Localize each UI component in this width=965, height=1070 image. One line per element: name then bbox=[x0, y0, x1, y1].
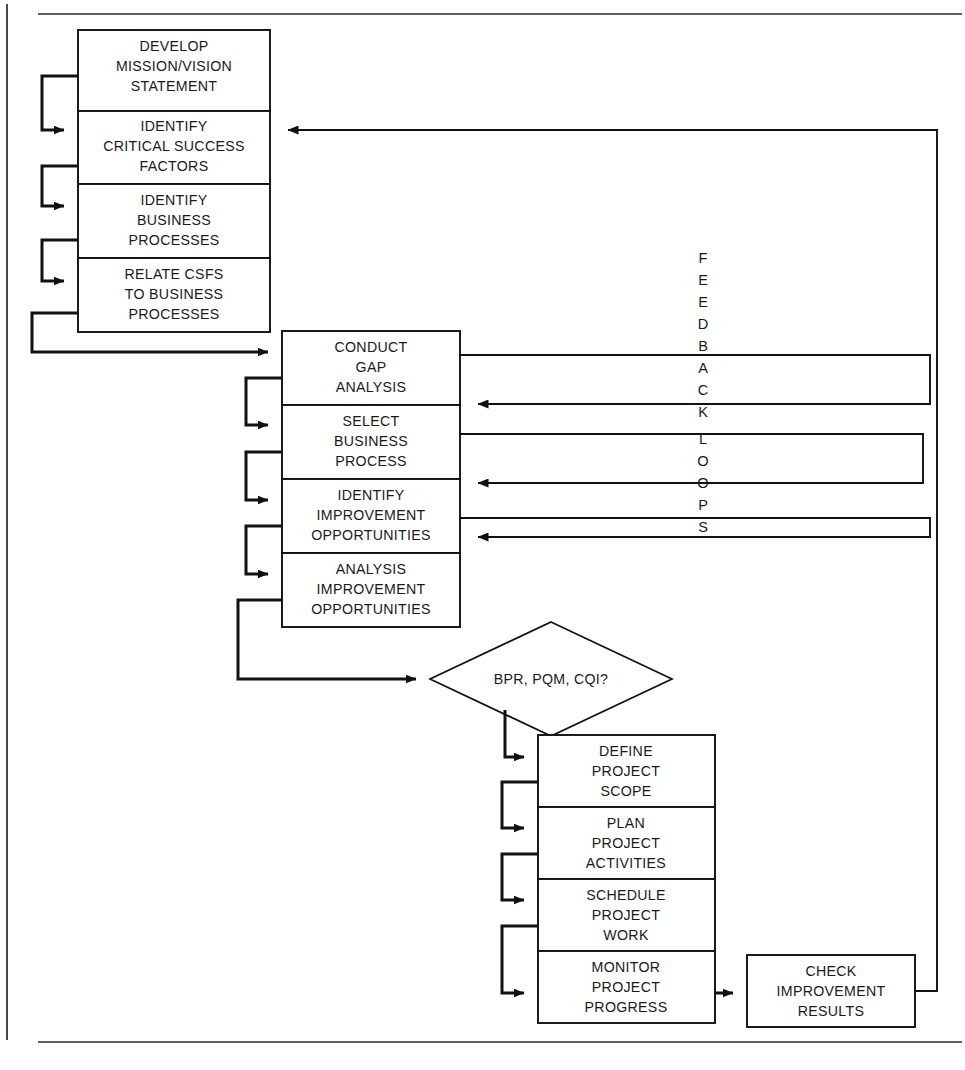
box-line: MISSION/VISION bbox=[116, 58, 232, 74]
connector-csf-to-business-processes bbox=[42, 166, 78, 206]
flowchart-diagram: DEVELOP MISSION/VISION STATEMENT IDENTIF… bbox=[0, 0, 965, 1070]
feedback-letter: P bbox=[698, 497, 708, 513]
box-line: ANALYSIS bbox=[336, 379, 407, 395]
box-line: PLAN bbox=[607, 815, 645, 831]
box-line: PROCESSES bbox=[128, 306, 219, 322]
box-define-project-scope[interactable]: DEFINE PROJECT SCOPE bbox=[538, 735, 715, 807]
box-line: PROCESSES bbox=[128, 232, 219, 248]
strategic-planning-stage: DEVELOP MISSION/VISION STATEMENT IDENTIF… bbox=[32, 30, 270, 352]
box-line: PROJECT bbox=[592, 979, 660, 995]
box-line: IMPROVEMENT bbox=[317, 507, 426, 523]
feedback-letter: O bbox=[697, 475, 708, 491]
feedback-letter: K bbox=[698, 404, 708, 420]
box-line: CHECK bbox=[805, 963, 856, 979]
box-line: IDENTIFY bbox=[140, 192, 207, 208]
feedback-loop-select-process-return bbox=[460, 434, 923, 483]
bpr-pqm-cqi-decision[interactable]: BPR, PQM, CQI? bbox=[430, 622, 672, 736]
connector-define-to-plan bbox=[502, 782, 538, 828]
project-management-stage: DEFINE PROJECT SCOPE PLAN PROJECT ACTIVI… bbox=[502, 735, 715, 1023]
feedback-letter: A bbox=[698, 360, 708, 376]
feedback-letter: C bbox=[698, 382, 709, 398]
connector-mission-to-csf bbox=[42, 76, 78, 130]
box-line: STATEMENT bbox=[131, 78, 218, 94]
gap-analysis-stage: CONDUCT GAP ANALYSIS SELECT BUSINESS PRO… bbox=[238, 331, 460, 679]
box-line: PROJECT bbox=[592, 835, 660, 851]
connector-gap-to-select bbox=[246, 378, 282, 425]
box-line: ANALYSIS bbox=[336, 561, 407, 577]
box-line: IMPROVEMENT bbox=[317, 581, 426, 597]
box-select-business-process[interactable]: SELECT BUSINESS PROCESS bbox=[282, 405, 460, 479]
feedback-letter: S bbox=[698, 519, 708, 535]
box-line: PROJECT bbox=[592, 907, 660, 923]
box-monitor-project-progress[interactable]: MONITOR PROJECT PROGRESS bbox=[538, 951, 715, 1023]
connector-processes-to-relate-csfs bbox=[42, 240, 78, 281]
box-develop-mission-vision-statement[interactable]: DEVELOP MISSION/VISION STATEMENT bbox=[78, 30, 270, 111]
feedback-letter: O bbox=[697, 453, 708, 469]
feedback-loops-label: F E E D B A C K L O O P S bbox=[697, 250, 708, 535]
box-line: DEVELOP bbox=[139, 38, 208, 54]
box-line: TO BUSINESS bbox=[125, 286, 223, 302]
box-line: IMPROVEMENT bbox=[777, 983, 886, 999]
box-relate-csfs-to-business-processes[interactable]: RELATE CSFS TO BUSINESS PROCESSES bbox=[78, 258, 270, 332]
decision-label: BPR, PQM, CQI? bbox=[494, 671, 609, 687]
box-line: DEFINE bbox=[599, 743, 653, 759]
box-line: IDENTIFY bbox=[140, 118, 207, 134]
box-line: WORK bbox=[603, 927, 649, 943]
box-identify-critical-success-factors[interactable]: IDENTIFY CRITICAL SUCCESS FACTORS bbox=[78, 111, 270, 184]
box-check-improvement-results[interactable]: CHECK IMPROVEMENT RESULTS bbox=[747, 955, 915, 1027]
feedback-letter: E bbox=[698, 272, 708, 288]
feedback-letter: F bbox=[699, 250, 708, 266]
box-line: SCOPE bbox=[600, 783, 651, 799]
connector-plan-to-schedule bbox=[502, 854, 538, 900]
connector-identify-to-analysis-improvement bbox=[246, 526, 282, 574]
box-analysis-improvement-opportunities[interactable]: ANALYSIS IMPROVEMENT OPPORTUNITIES bbox=[282, 553, 460, 627]
feedback-letter: E bbox=[698, 294, 708, 310]
box-line: OPPORTUNITIES bbox=[311, 601, 431, 617]
feedback-letter: B bbox=[698, 338, 708, 354]
feedback-letter: D bbox=[698, 316, 709, 332]
flowchart-canvas: DEVELOP MISSION/VISION STATEMENT IDENTIF… bbox=[0, 0, 965, 1070]
box-line: RESULTS bbox=[798, 1003, 864, 1019]
box-line: PROJECT bbox=[592, 763, 660, 779]
box-line: RELATE CSFS bbox=[124, 266, 223, 282]
box-identify-business-processes[interactable]: IDENTIFY BUSINESS PROCESSES bbox=[78, 184, 270, 258]
box-line: PROCESS bbox=[335, 453, 406, 469]
box-line: CRITICAL SUCCESS bbox=[103, 138, 244, 154]
box-line: ACTIVITIES bbox=[586, 855, 666, 871]
box-schedule-project-work[interactable]: SCHEDULE PROJECT WORK bbox=[538, 879, 715, 951]
box-identify-improvement-opportunities[interactable]: IDENTIFY IMPROVEMENT OPPORTUNITIES bbox=[282, 479, 460, 553]
box-line: SCHEDULE bbox=[586, 887, 666, 903]
box-line: OPPORTUNITIES bbox=[311, 527, 431, 543]
box-line: PROGRESS bbox=[585, 999, 668, 1015]
box-line: GAP bbox=[356, 359, 387, 375]
box-line: SELECT bbox=[343, 413, 400, 429]
box-line: BUSINESS bbox=[137, 212, 211, 228]
box-line: MONITOR bbox=[592, 959, 661, 975]
feedback-loop-gap-analysis-return bbox=[460, 355, 930, 404]
connector-schedule-to-monitor bbox=[502, 926, 538, 993]
box-line: BUSINESS bbox=[334, 433, 408, 449]
box-plan-project-activities[interactable]: PLAN PROJECT ACTIVITIES bbox=[538, 807, 715, 879]
connector-select-to-identify-improvement bbox=[246, 452, 282, 500]
box-conduct-gap-analysis[interactable]: CONDUCT GAP ANALYSIS bbox=[282, 331, 460, 405]
feedback-letter: L bbox=[699, 431, 707, 447]
feedback-loop-identify-improvement-return bbox=[460, 518, 930, 537]
box-line: FACTORS bbox=[140, 158, 209, 174]
box-line: IDENTIFY bbox=[337, 487, 404, 503]
box-line: CONDUCT bbox=[334, 339, 407, 355]
